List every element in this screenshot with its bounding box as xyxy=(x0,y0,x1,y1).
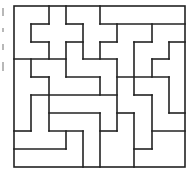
piece-boundaries xyxy=(14,6,185,167)
tiling-puzzle-diagram xyxy=(0,0,196,180)
